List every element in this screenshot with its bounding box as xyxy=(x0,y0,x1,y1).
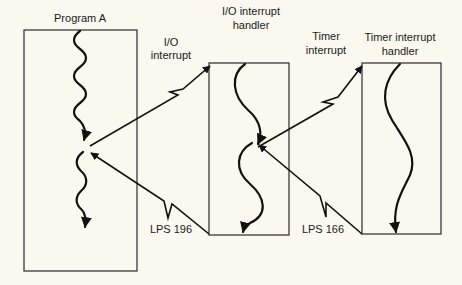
timer-handler-box: Timer interrupt handler xyxy=(362,31,441,234)
program-a-label: Program A xyxy=(54,12,107,24)
timer-handler-label-line2: handler xyxy=(382,45,419,57)
interrupt-flow-diagram: Program A I/O interrupt handler Timer in… xyxy=(0,0,462,285)
io-handler-label-line2: handler xyxy=(233,19,270,31)
lps-196-label: LPS 196 xyxy=(150,223,192,235)
lps-166-edge: LPS 166 xyxy=(259,145,362,235)
io-handler-flow-top xyxy=(235,64,261,144)
lps-196-edge: LPS 196 xyxy=(91,153,209,235)
io-interrupt-label-line2: interrupt xyxy=(151,49,191,61)
program-a-flow-bottom xyxy=(77,152,87,227)
timer-handler-label-line1: Timer interrupt xyxy=(364,31,435,43)
timer-interrupt-edge: Timer interrupt xyxy=(258,30,362,147)
io-handler-flow-bottom xyxy=(239,143,263,232)
program-a-box: Program A xyxy=(24,12,137,271)
timer-interrupt-label-line2: interrupt xyxy=(306,44,346,56)
io-handler-box: I/O interrupt handler xyxy=(209,5,289,235)
io-handler-label-line1: I/O interrupt xyxy=(222,5,280,17)
io-interrupt-edge: I/O interrupt xyxy=(90,36,210,146)
timer-handler-flow xyxy=(385,64,412,232)
lps-166-label: LPS 166 xyxy=(302,223,344,235)
io-interrupt-label-line1: I/O xyxy=(164,36,179,48)
timer-interrupt-label-line1: Timer xyxy=(312,30,340,42)
program-a-flow-top xyxy=(74,31,86,140)
